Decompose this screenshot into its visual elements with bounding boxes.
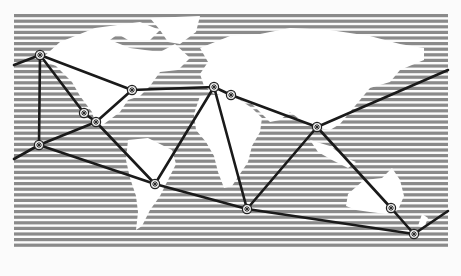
network-node-icon	[79, 108, 88, 117]
network-node-icon	[34, 140, 43, 149]
map-diagram	[0, 0, 461, 276]
network-node-icon	[127, 85, 136, 94]
ocean-stripe	[14, 31, 448, 34]
network-node-icon	[242, 204, 251, 213]
network-node-icon	[209, 82, 218, 91]
network-node-icon	[409, 229, 418, 238]
network-node-icon	[226, 90, 235, 99]
ocean-stripe	[14, 216, 448, 219]
network-link	[39, 55, 40, 145]
ocean-stripe	[14, 25, 448, 28]
ocean-stripe	[14, 238, 448, 241]
ocean-stripe	[14, 244, 448, 247]
network-node-icon	[312, 122, 321, 131]
network-node-icon	[150, 179, 159, 188]
ocean-stripe	[14, 20, 448, 23]
ocean-stripe	[14, 14, 448, 17]
network-node-icon	[35, 50, 44, 59]
network-node-icon	[386, 203, 395, 212]
ocean-stripe	[14, 232, 448, 235]
network-world-map	[0, 0, 461, 276]
ocean-stripe	[14, 221, 448, 224]
network-node-icon	[91, 117, 100, 126]
